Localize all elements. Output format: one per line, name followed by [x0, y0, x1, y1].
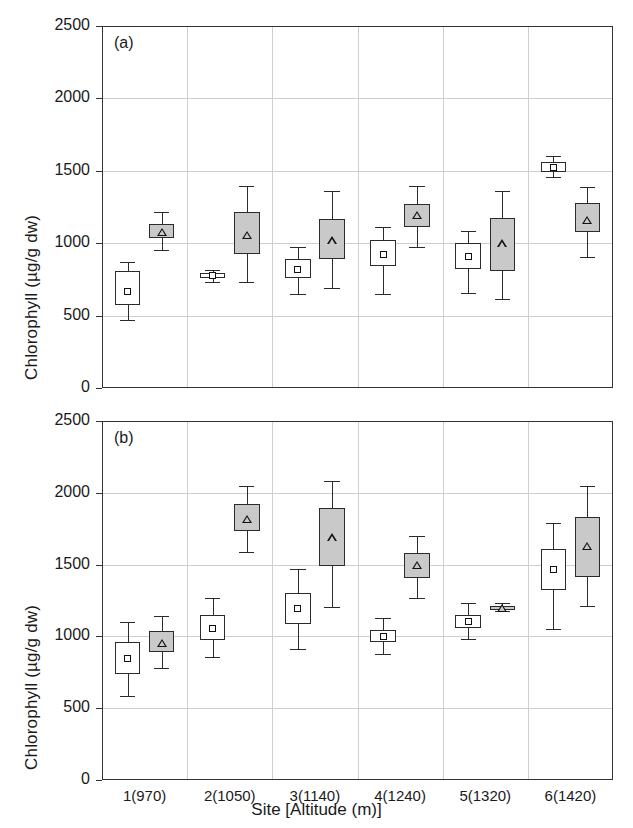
whisker-stem-lower: [162, 652, 163, 668]
whisker-stem-upper: [247, 186, 248, 212]
whisker-stem-lower: [587, 232, 588, 257]
mean-marker-triangle: [242, 515, 252, 523]
whisker-stem-upper: [417, 186, 418, 204]
mean-marker-triangle: [412, 561, 422, 569]
mean-marker-triangle: [327, 533, 337, 541]
mean-marker-triangle: [497, 604, 507, 612]
whisker-stem-upper: [213, 598, 214, 615]
mean-marker-triangle: [497, 239, 507, 247]
whisker-cap-lower: [324, 288, 339, 289]
vertical-gridline: [358, 27, 359, 387]
mean-marker-square: [550, 164, 557, 171]
whisker-cap-lower: [409, 247, 424, 248]
whisker-stem-lower: [128, 674, 129, 696]
whisker-cap-lower: [290, 649, 305, 650]
whisker-stem-lower: [332, 566, 333, 607]
triangle-inner: [329, 536, 335, 541]
mean-marker-triangle: [582, 216, 592, 224]
triangle-inner: [414, 213, 420, 218]
mean-marker-triangle: [157, 228, 167, 236]
mean-marker-square: [209, 625, 216, 632]
triangle-inner: [329, 239, 335, 244]
whisker-cap-lower: [239, 282, 254, 283]
y-tick-mark: [96, 636, 102, 637]
whisker-stem-upper: [298, 247, 299, 259]
whisker-cap-lower: [546, 629, 561, 630]
whisker-cap-lower: [580, 257, 595, 258]
whisker-cap-lower: [461, 639, 476, 640]
whisker-stem-lower: [417, 578, 418, 599]
y-tick-label: 500: [28, 698, 90, 716]
whisker-cap-upper: [205, 270, 220, 271]
triangle-inner: [159, 230, 165, 235]
triangle-inner: [584, 218, 590, 223]
whisker-stem-lower: [502, 271, 503, 299]
vertical-gridline: [187, 27, 188, 387]
y-tick-mark: [96, 26, 102, 27]
whisker-stem-lower: [587, 577, 588, 606]
whisker-stem-lower: [468, 269, 469, 294]
whisker-cap-upper: [580, 486, 595, 487]
whisker-cap-upper: [120, 622, 135, 623]
whisker-cap-lower: [120, 320, 135, 321]
y-tick-label: 1000: [28, 233, 90, 251]
panel-b-label: (b): [114, 429, 134, 447]
mean-marker-square: [380, 633, 387, 640]
vertical-gridline: [443, 422, 444, 779]
y-tick-label: 2500: [28, 16, 90, 34]
whisker-cap-lower: [580, 606, 595, 607]
whisker-stem-lower: [298, 624, 299, 648]
triangle-inner: [499, 242, 505, 247]
whisker-cap-upper: [324, 481, 339, 482]
y-tick-label: 1000: [28, 626, 90, 644]
y-tick-mark: [96, 316, 102, 317]
vertical-gridline: [528, 422, 529, 779]
mean-marker-triangle: [157, 639, 167, 647]
vertical-gridline: [272, 27, 273, 387]
triangle-inner: [159, 641, 165, 646]
whisker-stem-lower: [468, 628, 469, 639]
mean-marker-square: [465, 253, 472, 260]
whisker-stem-upper: [587, 486, 588, 517]
y-tick-mark: [96, 565, 102, 566]
whisker-stem-upper: [553, 523, 554, 549]
whisker-stem-upper: [383, 227, 384, 240]
mean-marker-square: [124, 655, 131, 662]
whisker-stem-lower: [213, 640, 214, 657]
whisker-stem-upper: [332, 481, 333, 508]
whisker-cap-lower: [409, 598, 424, 599]
mean-marker-triangle: [412, 211, 422, 219]
whisker-cap-upper: [461, 603, 476, 604]
whisker-stem-upper: [247, 486, 248, 504]
whisker-cap-lower: [120, 696, 135, 697]
mean-marker-square: [294, 266, 301, 273]
triangle-inner: [499, 606, 505, 611]
whisker-cap-lower: [154, 250, 169, 251]
whisker-stem-upper: [468, 231, 469, 243]
mean-marker-square: [124, 288, 131, 295]
whisker-stem-lower: [247, 254, 248, 282]
y-tick-label: 1500: [28, 161, 90, 179]
mean-marker-square: [380, 251, 387, 258]
whisker-cap-upper: [154, 616, 169, 617]
whisker-cap-lower: [205, 657, 220, 658]
y-tick-mark: [96, 493, 102, 494]
triangle-inner: [414, 563, 420, 568]
whisker-cap-upper: [120, 262, 135, 263]
whisker-stem-lower: [298, 278, 299, 294]
y-tick-label: 500: [28, 306, 90, 324]
x-axis-title: Site [Altitude (m)]: [0, 800, 633, 820]
y-tick-label: 0: [28, 378, 90, 396]
whisker-cap-lower: [461, 293, 476, 294]
whisker-cap-upper: [580, 187, 595, 188]
y-tick-mark: [96, 780, 102, 781]
whisker-stem-upper: [298, 569, 299, 593]
whisker-stem-upper: [502, 191, 503, 218]
whisker-stem-upper: [128, 622, 129, 642]
whisker-stem-lower: [332, 259, 333, 288]
whisker-cap-upper: [239, 186, 254, 187]
y-tick-label: 0: [28, 770, 90, 788]
triangle-inner: [244, 517, 250, 522]
y-tick-mark: [96, 171, 102, 172]
whisker-stem-upper: [162, 212, 163, 224]
